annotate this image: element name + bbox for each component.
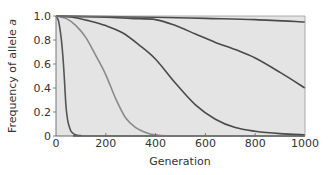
y-axis-ticks: 00.20.40.60.81.0: [34, 10, 57, 143]
y-axis-title-prefix: Frequency of allele: [6, 26, 19, 133]
x-tick-label: 400: [145, 137, 166, 150]
x-axis-title: Generation: [149, 155, 210, 168]
x-tick-label: 0: [53, 137, 60, 150]
plot-area: [56, 16, 305, 136]
y-tick-label: 0.6: [34, 58, 52, 71]
y-tick-label: 0.8: [34, 34, 52, 47]
x-tick-label: 200: [95, 137, 116, 150]
x-tick-label: 1000: [291, 137, 319, 150]
chart: 02004006008001000 00.20.40.60.81.0 Gener…: [0, 0, 331, 175]
y-tick-label: 1.0: [34, 10, 52, 23]
y-axis-title: Frequency of allele a: [6, 19, 19, 133]
y-tick-label: 0: [44, 130, 51, 143]
y-tick-label: 0.4: [34, 82, 52, 95]
y-axis-title-italic: a: [6, 19, 19, 26]
y-tick-label: 0.2: [34, 106, 52, 119]
x-tick-label: 600: [195, 137, 216, 150]
x-tick-label: 800: [245, 137, 266, 150]
